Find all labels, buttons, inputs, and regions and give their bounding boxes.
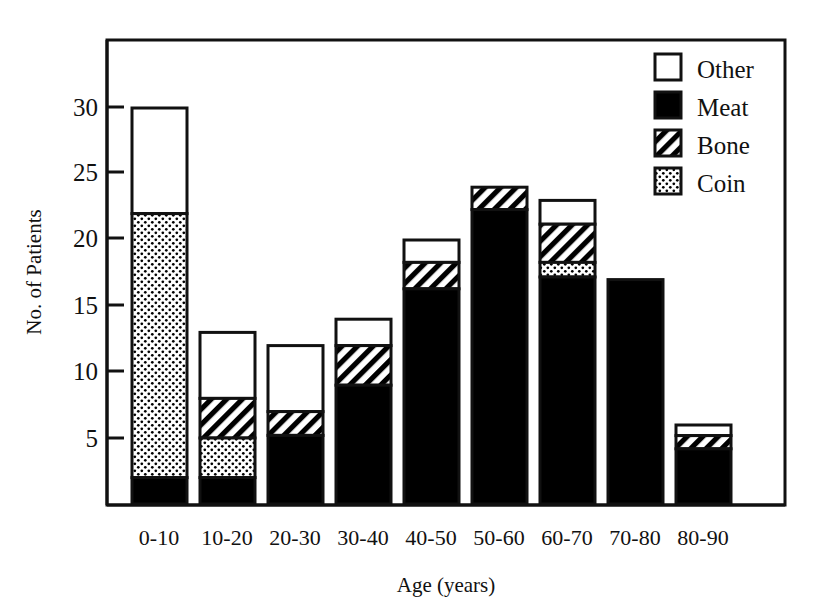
bar-segment-meat <box>472 210 527 504</box>
y-axis-ticks <box>107 107 124 438</box>
x-tick-labels: 0-10 10-20 20-30 30-40 40-50 50-60 60-70… <box>139 525 729 550</box>
x-tick-label: 40-50 <box>405 525 456 550</box>
bar-segment-meat <box>608 280 663 504</box>
bars-group <box>132 108 731 504</box>
bar-stack-60-70 <box>540 200 595 504</box>
bar-segment-bone <box>268 412 323 436</box>
legend-swatch-meat <box>655 92 681 118</box>
bar-segment-meat <box>336 385 391 504</box>
x-tick-label: 70-80 <box>609 525 660 550</box>
bar-segment-other <box>676 425 731 436</box>
chart-svg: 30 25 20 15 10 5 <box>0 0 828 610</box>
x-tick-label: 30-40 <box>337 525 388 550</box>
bar-stack-70-80 <box>608 280 663 504</box>
bar-segment-coin <box>200 438 255 478</box>
legend-label: Meat <box>697 94 748 121</box>
bar-segment-meat <box>540 277 595 504</box>
bar-segment-coin <box>132 214 187 478</box>
legend-label: Other <box>697 56 755 83</box>
chart-legend: Other Meat Bone Coin <box>655 54 755 197</box>
bar-segment-meat <box>404 289 459 504</box>
y-tick-label: 25 <box>73 159 98 186</box>
bar-segment-meat <box>676 449 731 504</box>
bar-segment-other <box>336 319 391 345</box>
bar-stack-10-20 <box>200 332 255 504</box>
legend-item-other: Other <box>655 54 755 83</box>
legend-item-meat: Meat <box>655 92 748 121</box>
bar-segment-bone <box>676 436 731 449</box>
bar-segment-bone <box>336 346 391 386</box>
bar-stack-30-40 <box>336 319 391 504</box>
bar-segment-meat <box>200 478 255 504</box>
bar-segment-other <box>132 108 187 214</box>
bar-segment-meat <box>268 435 323 504</box>
x-tick-label: 10-20 <box>201 525 252 550</box>
legend-swatch-coin <box>655 168 681 194</box>
y-axis-title: No. of Patients <box>22 209 46 334</box>
legend-label: Coin <box>697 170 746 197</box>
y-tick-label: 10 <box>73 358 98 385</box>
bar-segment-bone <box>200 398 255 438</box>
legend-item-coin: Coin <box>655 168 746 197</box>
y-tick-labels: 30 25 20 15 10 5 <box>73 94 98 452</box>
bar-stack-0-10 <box>132 108 187 504</box>
bar-segment-other <box>268 346 323 412</box>
bar-stack-80-90 <box>676 425 731 504</box>
y-tick-label: 15 <box>73 292 98 319</box>
chart-figure: 30 25 20 15 10 5 <box>0 0 828 610</box>
legend-label: Bone <box>697 132 750 159</box>
x-tick-label: 80-90 <box>677 525 728 550</box>
legend-item-bone: Bone <box>655 130 750 159</box>
bar-segment-meat <box>132 478 187 504</box>
legend-swatch-other <box>655 54 681 80</box>
y-tick-label: 30 <box>73 94 98 121</box>
bar-segment-coin <box>540 262 595 277</box>
bar-segment-bone <box>472 187 527 209</box>
bar-stack-20-30 <box>268 346 323 504</box>
legend-swatch-bone <box>655 130 681 156</box>
bar-segment-other <box>404 240 459 262</box>
bar-segment-other <box>540 200 595 224</box>
y-tick-label: 5 <box>86 425 99 452</box>
x-axis-title: Age (years) <box>397 573 496 597</box>
bar-segment-bone <box>404 262 459 288</box>
bar-stack-50-60 <box>472 187 527 504</box>
x-tick-label: 20-30 <box>269 525 320 550</box>
x-tick-label: 60-70 <box>541 525 592 550</box>
y-tick-label: 20 <box>73 225 98 252</box>
x-tick-label: 0-10 <box>139 525 179 550</box>
bar-stack-40-50 <box>404 240 459 504</box>
bar-segment-other <box>200 332 255 398</box>
x-tick-label: 50-60 <box>473 525 524 550</box>
bar-segment-bone <box>540 224 595 262</box>
